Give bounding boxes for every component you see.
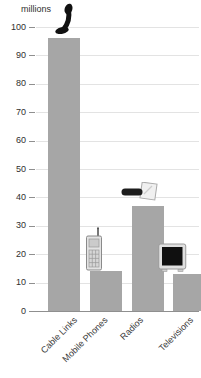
y-tick-mark xyxy=(29,197,35,198)
y-tick-label: 50 xyxy=(0,164,26,175)
y-tick-label: 100 xyxy=(0,22,26,33)
y-tick-label: 80 xyxy=(0,78,26,89)
y-tick-mark xyxy=(29,169,35,170)
bar-cable-links xyxy=(48,38,80,311)
y-tick-mark xyxy=(29,27,35,28)
y-tick-mark xyxy=(29,55,35,56)
y-tick-mark xyxy=(29,112,35,113)
television-icon xyxy=(158,243,187,272)
y-tick-label: 20 xyxy=(0,249,26,260)
y-tick-label: 70 xyxy=(0,107,26,118)
bar-mobile-phones xyxy=(90,271,122,311)
y-tick-label: 60 xyxy=(0,135,26,146)
y-tick-label: 30 xyxy=(0,220,26,231)
y-axis-unit-label: millions xyxy=(21,4,51,14)
y-tick-label: 40 xyxy=(0,192,26,203)
bar-televisions xyxy=(173,274,201,311)
y-tick-mark xyxy=(29,283,35,284)
x-label-televisions: Televisions xyxy=(157,315,195,353)
y-tick-mark xyxy=(29,226,35,227)
telephone-handset-icon xyxy=(55,3,74,34)
x-axis-line xyxy=(29,311,199,312)
y-tick-label: 0 xyxy=(0,306,26,317)
y-tick-mark xyxy=(29,254,35,255)
mobile-phone-icon xyxy=(84,227,104,271)
radio-icon xyxy=(121,182,158,204)
y-tick-mark xyxy=(29,141,35,142)
y-tick-label: 90 xyxy=(0,50,26,61)
y-tick-label: 10 xyxy=(0,277,26,288)
bar-chart: millions 0102030405060708090100 xyxy=(0,0,201,378)
y-tick-mark xyxy=(29,84,35,85)
x-label-radios: Radios xyxy=(118,315,145,342)
